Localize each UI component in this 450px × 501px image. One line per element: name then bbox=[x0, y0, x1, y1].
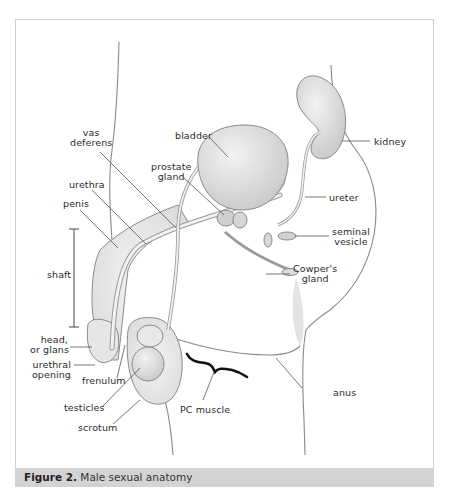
scrotum-drawing bbox=[127, 318, 182, 405]
label-anus: anus bbox=[333, 388, 356, 398]
label-frenulum: frenulum bbox=[82, 376, 126, 386]
label-bladder: bladder bbox=[175, 131, 212, 141]
figure-number: Figure 2. bbox=[24, 471, 77, 483]
label-testicles: testicles bbox=[64, 403, 104, 413]
figure-title: Male sexual anatomy bbox=[80, 471, 192, 483]
label-scrotum: scrotum bbox=[78, 423, 117, 433]
label-prostate-gland: prostate gland bbox=[151, 162, 191, 182]
pc-muscle-brace bbox=[187, 354, 247, 377]
label-vas-deferens: vas deferens bbox=[70, 128, 112, 148]
label-penis: penis bbox=[63, 199, 89, 209]
label-urethral-opening: urethral opening bbox=[26, 360, 71, 380]
label-seminal-vesicle: seminal vesicle bbox=[332, 227, 370, 247]
anatomy-illustration bbox=[0, 0, 450, 501]
figure-caption: Figure 2. Male sexual anatomy bbox=[15, 468, 434, 487]
label-cowpers-gland: Cowper's gland bbox=[293, 264, 337, 284]
label-kidney: kidney bbox=[374, 137, 406, 147]
label-pc-muscle: PC muscle bbox=[180, 405, 230, 415]
label-ureter: ureter bbox=[329, 193, 359, 203]
label-head-or-glans: head, or glans bbox=[30, 335, 68, 355]
label-urethra: urethra bbox=[69, 180, 105, 190]
penis-drawing bbox=[87, 195, 280, 363]
label-shaft: shaft bbox=[47, 270, 71, 280]
